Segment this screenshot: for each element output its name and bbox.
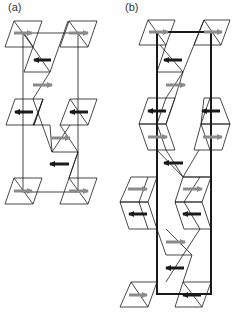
panel-b-arrows [128,32,222,295]
crystal-structure-diagram [0,0,234,316]
panel-a-arrows [14,33,88,191]
